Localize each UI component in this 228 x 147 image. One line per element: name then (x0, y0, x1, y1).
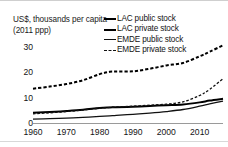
figure-bottom-rule (0, 141, 228, 142)
series-line-lac-private-stock (33, 45, 223, 88)
x-axis-line (33, 123, 223, 124)
series-line-lac-public-stock (33, 99, 223, 113)
chart-figure: US$, thousands per capita (2011 ppp) LAC… (0, 0, 228, 147)
plot-area (0, 1, 228, 147)
